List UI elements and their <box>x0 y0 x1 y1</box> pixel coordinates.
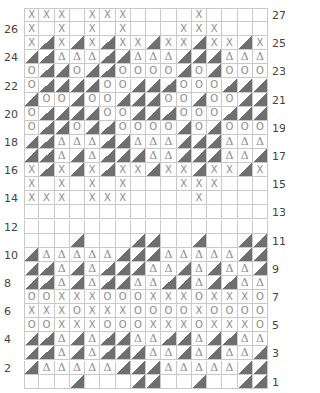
chart-cell: O <box>85 93 100 107</box>
chart-cell: O <box>24 290 39 304</box>
chart-cell: X <box>116 22 131 36</box>
shaded-triangle-icon <box>253 79 268 93</box>
chart-cell: Δ <box>161 248 176 262</box>
shaded-triangle-icon <box>177 50 192 64</box>
shaded-triangle-icon <box>131 107 146 121</box>
chart-cell: Δ <box>238 332 253 346</box>
delta-stitch-icon: Δ <box>58 333 66 344</box>
chart-cell: Δ <box>85 276 100 290</box>
chart-row: XXXXXXXXXX <box>24 163 268 177</box>
chart-cell: Δ <box>55 248 70 262</box>
x-stitch-icon: X <box>89 292 96 302</box>
chart-cell: X <box>146 318 161 332</box>
shaded-triangle-icon <box>85 79 100 93</box>
empty-cell <box>253 8 268 22</box>
chart-cell: Δ <box>55 262 70 276</box>
shaded-triangle-icon <box>253 361 268 375</box>
chart-cell: Δ <box>85 361 100 375</box>
x-stitch-icon: X <box>28 10 35 20</box>
shaded-triangle-icon <box>177 149 192 163</box>
delta-stitch-icon: Δ <box>195 263 203 274</box>
chart-cell: O <box>146 304 161 318</box>
chart-row: ΔΔΔΔΔΔΔΔΔΔ <box>24 248 268 262</box>
chart-cell: Δ <box>192 276 207 290</box>
x-stitch-icon: X <box>28 165 35 175</box>
x-stitch-icon: X <box>180 165 187 175</box>
chart-cell: X <box>39 304 54 318</box>
chart-cell: Δ <box>146 262 161 276</box>
chart-cell: X <box>207 163 222 177</box>
shaded-triangle-icon <box>238 248 253 262</box>
chart-cell: X <box>131 36 146 50</box>
shaded-triangle-icon <box>39 121 54 135</box>
chart-cell: O <box>70 121 85 135</box>
chart-cell: O <box>146 64 161 78</box>
chart-cell: Δ <box>131 276 146 290</box>
empty-cell <box>100 234 115 248</box>
delta-stitch-icon: Δ <box>195 333 203 344</box>
chart-cell: Δ <box>70 248 85 262</box>
shaded-triangle-icon <box>177 332 192 346</box>
empty-cell <box>55 205 70 219</box>
x-stitch-icon: X <box>43 306 50 316</box>
delta-stitch-icon: Δ <box>164 150 172 161</box>
delta-stitch-icon: Δ <box>164 136 172 147</box>
delta-stitch-icon: Δ <box>73 362 81 373</box>
delta-stitch-icon: Δ <box>88 136 96 147</box>
chart-cell: O <box>253 290 268 304</box>
shaded-triangle-icon <box>70 276 85 290</box>
chart-cell: X <box>55 290 70 304</box>
shaded-triangle-icon <box>177 262 192 276</box>
empty-cell <box>238 177 253 191</box>
shaded-triangle-icon <box>253 346 268 360</box>
o-stitch-icon: O <box>103 320 111 330</box>
chart-cell: Δ <box>85 50 100 64</box>
delta-stitch-icon: Δ <box>73 136 81 147</box>
empty-cell <box>70 220 85 234</box>
chart-cell: X <box>100 191 115 205</box>
x-stitch-icon: X <box>134 165 141 175</box>
delta-stitch-icon: Δ <box>88 263 96 274</box>
chart-cell: Δ <box>192 248 207 262</box>
shaded-triangle-icon <box>131 346 146 360</box>
chart-cell: X <box>24 22 39 36</box>
shaded-triangle-icon <box>238 375 253 389</box>
x-stitch-icon: X <box>28 24 35 34</box>
chart-cell: X <box>24 304 39 318</box>
chart-cell: Δ <box>146 135 161 149</box>
chart-cell: Δ <box>207 248 222 262</box>
x-stitch-icon: X <box>165 292 172 302</box>
delta-stitch-icon: Δ <box>149 277 157 288</box>
o-stitch-icon: O <box>149 122 157 132</box>
chart-cell: O <box>131 318 146 332</box>
chart-cell: O <box>207 304 222 318</box>
delta-stitch-icon: Δ <box>42 249 50 260</box>
shaded-triangle-icon <box>207 121 222 135</box>
empty-cell <box>146 22 161 36</box>
shaded-triangle-icon <box>24 50 39 64</box>
chart-cell: O <box>24 107 39 121</box>
delta-stitch-icon: Δ <box>88 150 96 161</box>
empty-cell <box>207 8 222 22</box>
empty-cell <box>207 205 222 219</box>
shaded-triangle-icon <box>207 346 222 360</box>
delta-stitch-icon: Δ <box>88 249 96 260</box>
shaded-triangle-icon <box>116 332 131 346</box>
chart-cell: X <box>177 177 192 191</box>
x-stitch-icon: X <box>58 10 65 20</box>
row-number-label: 11 <box>272 235 285 248</box>
chart-cell: Δ <box>161 361 176 375</box>
shaded-triangle-icon <box>24 346 39 360</box>
empty-cell <box>222 205 237 219</box>
o-stitch-icon: O <box>180 80 188 90</box>
shaded-triangle-icon <box>39 262 54 276</box>
empty-cell <box>39 220 54 234</box>
x-stitch-icon: X <box>150 320 157 330</box>
empty-cell <box>55 375 70 389</box>
x-stitch-icon: X <box>226 320 233 330</box>
x-stitch-icon: X <box>195 193 202 203</box>
x-stitch-icon: X <box>73 320 80 330</box>
shaded-triangle-icon <box>39 276 54 290</box>
o-stitch-icon: O <box>149 66 157 76</box>
shaded-triangle-icon <box>177 64 192 78</box>
